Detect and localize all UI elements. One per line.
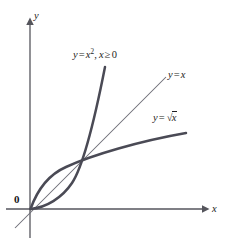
radical-group: √x: [166, 113, 178, 124]
origin-label: 0: [14, 193, 20, 205]
line-equals: =: [173, 69, 181, 80]
parabola-domain-var: x: [97, 49, 104, 60]
line-rhs: x: [181, 69, 186, 80]
curve-label-square-root: y=√x: [153, 113, 177, 124]
radicand: x: [172, 111, 178, 123]
parabola-bound: 0: [112, 49, 117, 60]
graph-canvas: [0, 0, 227, 244]
curve-label-parabola: y=x2,x≥0: [73, 50, 117, 61]
curve-square-root: [31, 133, 187, 209]
x-axis-label: x: [212, 203, 217, 214]
curve-identity-line: [15, 77, 166, 228]
sqrt-equals: =: [158, 112, 166, 123]
parabola-equals: =: [78, 49, 86, 60]
parabola-relation: ≥: [104, 49, 112, 60]
y-axis-label: y: [34, 10, 39, 21]
curve-label-identity: y=x: [168, 70, 186, 81]
math-graph-figure: y x 0 y=x2,x≥0 y=x y=√x: [0, 0, 227, 244]
